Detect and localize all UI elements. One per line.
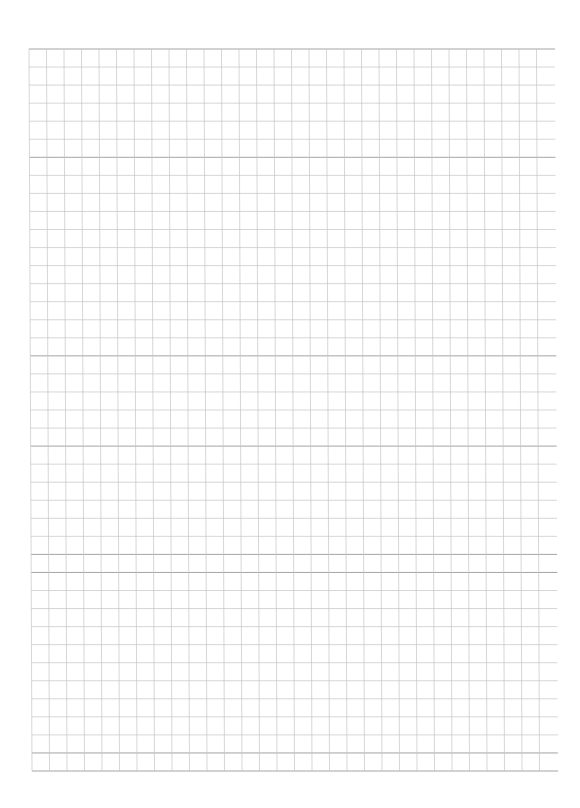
grid-paper-page: [0, 0, 580, 808]
grid-lines: [0, 0, 580, 808]
